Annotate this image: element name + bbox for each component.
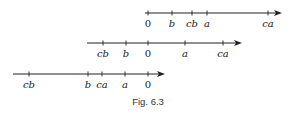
figure-caption: Fig. 6.3 — [132, 96, 164, 107]
point-label: ca — [262, 18, 274, 29]
point-label: 0 — [145, 18, 151, 29]
number-line: cbb0aca — [87, 40, 242, 59]
point-label: 0 — [145, 79, 151, 90]
point-label: b — [123, 48, 129, 59]
point-label: a — [182, 48, 188, 59]
point-label: cb — [97, 48, 109, 59]
point-label: cb — [23, 79, 35, 90]
point-label: b — [169, 18, 175, 29]
number-line: 0bcbaca — [145, 10, 282, 29]
number-line-figure: 0bcbacacbb0acacbbcaa0Fig. 6.3 — [0, 0, 294, 120]
point-label: ca — [217, 48, 229, 59]
point-label: a — [204, 18, 210, 29]
point-label: a — [122, 79, 128, 90]
point-label: b — [85, 79, 91, 90]
point-label: ca — [96, 79, 108, 90]
point-label: 0 — [145, 48, 151, 59]
point-label: cb — [186, 18, 198, 29]
number-line: cbbcaa0 — [13, 71, 165, 90]
